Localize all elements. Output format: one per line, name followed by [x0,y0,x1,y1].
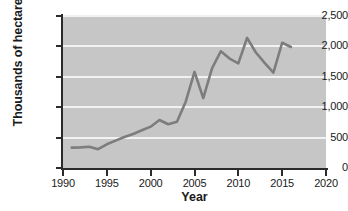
x-tick [150,170,152,176]
y-tick-label: 0 [296,161,348,173]
x-tick-label: 1990 [43,177,83,189]
x-tick [281,170,283,176]
x-axis-title: Year [63,190,326,204]
y-tick [56,76,62,78]
data-line [63,16,326,168]
x-tick-label: 1995 [87,177,127,189]
x-tick-label: 2010 [218,177,258,189]
y-axis-line [61,14,63,170]
x-tick [237,170,239,176]
x-tick [194,170,196,176]
y-tick-label: 500 [296,131,348,143]
line-chart: Thousands of hectares 05001,0001,5002,00… [0,0,348,211]
y-tick [56,15,62,17]
x-tick-label: 2000 [131,177,171,189]
x-tick [325,170,327,176]
y-tick-label: 2,500 [296,9,348,21]
x-tick-label: 2015 [262,177,302,189]
y-axis-title: Thousands of hectares [11,0,25,131]
y-tick [56,137,62,139]
y-tick [56,45,62,47]
y-tick-label: 1,500 [296,70,348,82]
x-tick-label: 2020 [306,177,346,189]
plot-area [63,16,326,168]
x-tick [106,170,108,176]
x-tick-label: 2005 [175,177,215,189]
y-tick-label: 2,000 [296,39,348,51]
x-tick [62,170,64,176]
y-tick [56,106,62,108]
y-tick-label: 1,000 [296,100,348,112]
y-tick [56,167,62,169]
